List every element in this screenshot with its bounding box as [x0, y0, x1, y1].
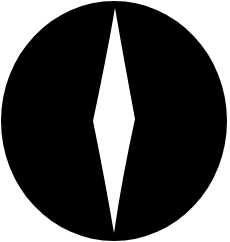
icon-container: [0, 0, 230, 242]
eye-slit-icon: [0, 0, 230, 242]
